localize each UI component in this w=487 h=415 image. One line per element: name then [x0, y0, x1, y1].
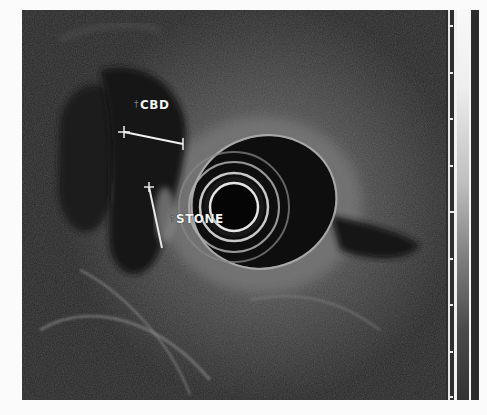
scale-tick: [448, 396, 453, 398]
scale-tick: [448, 72, 453, 74]
stone-annotation: †STONE: [170, 213, 224, 225]
scan-graphics: [22, 10, 446, 400]
cbd-label: CBD: [140, 98, 169, 112]
side-bar: [471, 10, 479, 400]
ultrasound-scan-image: [22, 10, 446, 400]
grayscale-bar: [457, 10, 469, 400]
scale-tick: [448, 118, 453, 120]
depth-scale-bar: [446, 10, 454, 400]
scale-tick: [448, 25, 453, 27]
ultrasound-figure: †CBD †STONE: [0, 0, 487, 415]
cbd-annotation: †CBD: [134, 99, 169, 111]
scale-tick: [448, 258, 453, 260]
annotation-marker-icon: †: [170, 213, 175, 223]
annotation-marker-icon: †: [134, 99, 139, 109]
scale-tick: [448, 351, 453, 353]
scale-line: [448, 10, 450, 400]
scale-tick: [448, 165, 453, 167]
scale-tick: [448, 304, 453, 306]
stone-label: STONE: [176, 212, 224, 226]
